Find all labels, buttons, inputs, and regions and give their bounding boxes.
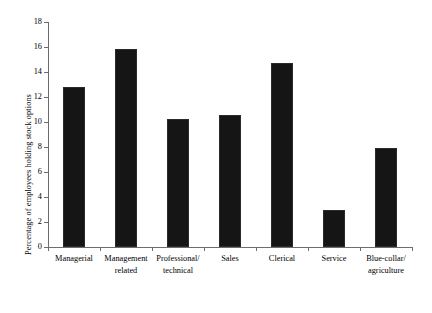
x-tick-mark xyxy=(308,247,309,251)
y-tick-mark xyxy=(44,122,48,123)
x-tick-mark xyxy=(100,247,101,251)
y-tick-label: 18 xyxy=(34,16,42,27)
bar xyxy=(323,210,345,248)
y-tick-label: 16 xyxy=(34,41,42,52)
x-tick-mark xyxy=(412,247,413,251)
x-tick-mark xyxy=(48,247,49,251)
bar-chart: Percentage of employees holding stock op… xyxy=(0,0,432,313)
x-tick-mark xyxy=(256,247,257,251)
bar xyxy=(63,87,85,247)
y-tick-label: 10 xyxy=(34,116,42,127)
y-tick-label: 12 xyxy=(34,91,42,102)
y-tick-label: 0 xyxy=(38,241,42,252)
y-tick-mark xyxy=(44,97,48,98)
y-tick-mark xyxy=(44,147,48,148)
x-tick-mark xyxy=(152,247,153,251)
y-tick-mark xyxy=(44,22,48,23)
y-tick-label: 8 xyxy=(38,141,42,152)
y-tick-mark xyxy=(44,47,48,48)
y-tick-mark xyxy=(44,222,48,223)
x-tick-mark xyxy=(204,247,205,251)
x-axis-labels: ManagerialManagement relatedProfessional… xyxy=(48,253,412,297)
plot-area: 024681012141618 xyxy=(48,22,412,248)
y-tick-label: 14 xyxy=(34,66,42,77)
x-axis-line xyxy=(48,247,412,248)
bar xyxy=(219,115,241,247)
y-tick-label: 6 xyxy=(38,166,42,177)
y-tick-mark xyxy=(44,172,48,173)
y-tick-label: 2 xyxy=(38,216,42,227)
x-tick-mark xyxy=(360,247,361,251)
x-axis-label: Blue-collar/ agriculture xyxy=(355,253,417,276)
y-tick-mark xyxy=(44,72,48,73)
bar xyxy=(115,49,137,247)
y-tick-mark xyxy=(44,197,48,198)
bar xyxy=(167,119,189,247)
y-axis-line xyxy=(48,22,49,248)
bar xyxy=(375,148,397,247)
bar xyxy=(271,63,293,247)
y-tick-label: 4 xyxy=(38,191,42,202)
